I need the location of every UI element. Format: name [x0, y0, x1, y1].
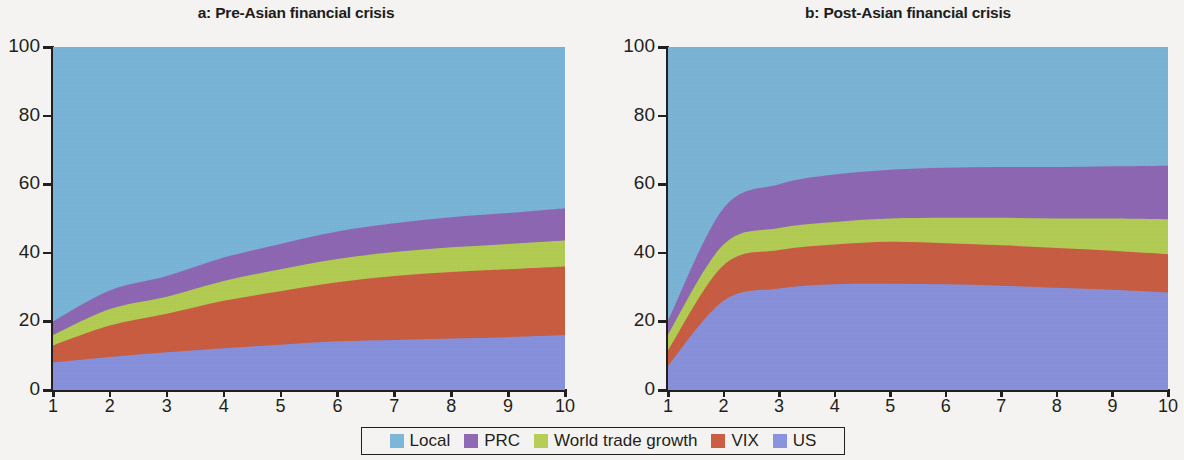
x-axis-tick-label: 2 [719, 396, 729, 417]
x-axis-tick-label: 4 [830, 396, 840, 417]
y-axis-tick-label: 80 [0, 104, 40, 126]
legend-swatch-icon [773, 434, 787, 448]
x-axis-tick-label: 7 [389, 396, 399, 417]
chart-a-title: a: Pre-Asian financial crisis [0, 4, 592, 22]
x-axis-tick-label: 7 [996, 396, 1006, 417]
legend-label: PRC [484, 431, 520, 451]
legend-item-prc[interactable]: PRC [464, 431, 520, 451]
x-axis-tick-label: 10 [555, 396, 575, 417]
y-axis-tick-label: 60 [615, 172, 655, 194]
legend-swatch-icon [464, 434, 478, 448]
x-axis-tick-label: 3 [774, 396, 784, 417]
legend-label: US [793, 431, 817, 451]
legend-label: VIX [731, 431, 758, 451]
x-axis-tick-label: 1 [663, 396, 673, 417]
y-axis-tick-label: 0 [0, 378, 40, 400]
x-axis-tick-label: 5 [276, 396, 286, 417]
y-axis-tick-label: 40 [615, 241, 655, 263]
x-axis-tick-label: 8 [1052, 396, 1062, 417]
chart-a-stacked-area-svg [53, 47, 565, 390]
legend-item-vix[interactable]: VIX [711, 431, 758, 451]
legend-item-us[interactable]: US [773, 431, 817, 451]
y-axis-tick-label: 80 [615, 104, 655, 126]
x-axis-tick-label: 3 [162, 396, 172, 417]
y-axis-tick-label: 60 [0, 172, 40, 194]
chart-b-title: b: Post-Asian financial crisis [592, 4, 1184, 22]
x-axis-tick-label: 4 [219, 396, 229, 417]
chart-a-plot-area [53, 47, 565, 390]
chart-panel-b: b: Post-Asian financial crisis 020406080… [592, 0, 1184, 460]
chart-b-stacked-area-svg [668, 47, 1168, 390]
legend-swatch-icon [534, 434, 548, 448]
x-axis-tick-label: 10 [1158, 396, 1178, 417]
x-axis-tick-label: 2 [105, 396, 115, 417]
y-axis-tick-label: 100 [0, 35, 40, 57]
legend-item-local[interactable]: Local [390, 431, 451, 451]
x-axis-tick-label: 6 [941, 396, 951, 417]
legend-item-world-trade-growth[interactable]: World trade growth [534, 431, 697, 451]
y-axis-tick-label: 40 [0, 241, 40, 263]
x-axis-tick-label: 6 [332, 396, 342, 417]
chart-b-plot-area [668, 47, 1168, 390]
y-axis-tick-label: 0 [615, 378, 655, 400]
x-axis-tick-label: 5 [885, 396, 895, 417]
x-axis-tick-label: 9 [503, 396, 513, 417]
y-axis-tick-label: 20 [0, 309, 40, 331]
legend-swatch-icon [711, 434, 725, 448]
x-axis-tick-label: 8 [446, 396, 456, 417]
legend-label: Local [410, 431, 451, 451]
y-axis-tick-label: 100 [615, 35, 655, 57]
x-axis-tick-label: 9 [1107, 396, 1117, 417]
y-axis-tick-label: 20 [615, 309, 655, 331]
x-axis-tick-label: 1 [48, 396, 58, 417]
legend-swatch-icon [390, 434, 404, 448]
area-band-us [668, 284, 1168, 390]
chart-panel-a: a: Pre-Asian financial crisis 0204060801… [0, 0, 592, 460]
legend-label: World trade growth [554, 431, 697, 451]
chart-legend: LocalPRCWorld trade growthVIXUS [361, 427, 845, 455]
